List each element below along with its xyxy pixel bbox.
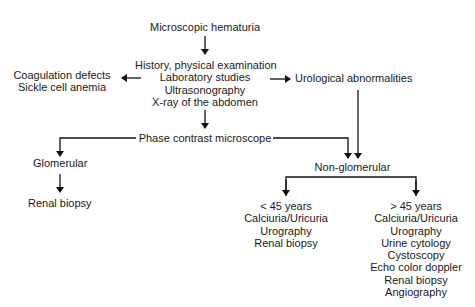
node-hematologic-causes: Coagulation defects Sickle cell anemia [8, 69, 116, 94]
workup-line: Ultrasonography [135, 84, 275, 96]
node-glomerular-renal-biopsy: Renal biopsy [28, 197, 92, 209]
workup-line: History, physical examination [135, 59, 275, 71]
workup-line: X-ray of the abdomen [135, 96, 275, 108]
node-microscopic-hematuria: Microscopic hematuria [145, 21, 265, 33]
node-over-45-years: > 45 years Calciuria/Uricuria Urography … [362, 200, 470, 298]
workup-line: Laboratory studies [135, 71, 275, 83]
node-non-glomerular: Non-glomerular [300, 161, 405, 173]
node-phase-contrast: Phase contrast microscope [137, 132, 273, 144]
node-urological-abnormalities: Urological abnormalities [295, 72, 412, 84]
node-initial-workup: History, physical examination Laboratory… [135, 59, 275, 108]
node-under-45-years: < 45 years Calciuria/Uricuria Urography … [236, 200, 336, 249]
node-glomerular: Glomerular [33, 157, 87, 169]
